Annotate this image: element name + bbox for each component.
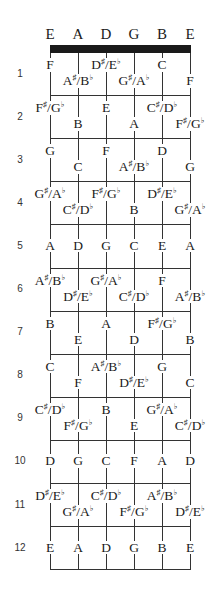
note-label: A♯/B♭ [174,290,206,304]
note-label: F [157,274,167,288]
note-label: G♯/A♭ [89,274,122,288]
note-label: C♯/D♭ [34,403,66,417]
fret-number: 6 [14,284,26,294]
note-label: G [184,160,196,174]
fret-line [50,138,191,139]
note-label: B [100,403,111,417]
note-label: C♯/D♭ [146,101,178,115]
fret-number: 12 [14,543,26,553]
note-label: C♯/D♭ [118,290,150,304]
open-string-label: G [129,27,140,42]
note-label: D [44,454,56,468]
note-label: A♯/B♭ [118,160,150,174]
note-label: B [156,541,167,555]
note-label: E [101,101,111,115]
note-label: D♯/E♭ [90,58,122,72]
note-label: F [101,144,111,158]
fret-line [50,181,191,182]
note-label: G [44,144,56,158]
note-label: D [100,541,112,555]
note-label: D♯/E♭ [174,505,206,519]
note-label: D♯/E♭ [118,376,150,390]
note-label: F♯/G♭ [119,505,150,519]
fretboard-diagram: EADGBE1FA♯/B♭D♯/E♭G♯/A♭CF2F♯/G♭BEAC♯/D♭F… [0,0,218,590]
note-label: D♯/E♭ [62,290,94,304]
fret-line [50,95,191,96]
note-label: A [100,317,112,331]
open-string-label: B [157,27,167,42]
note-label: A [184,239,196,253]
note-label: G [128,541,140,555]
fret-number: 2 [14,112,26,122]
fret-number: 10 [14,456,26,466]
note-label: B [44,317,55,331]
fret-line [50,440,191,441]
note-label: B [184,333,195,347]
note-label: E [157,239,167,253]
open-string-label: E [185,27,194,42]
fret-line [50,354,191,355]
fret-line [50,311,191,312]
fret-line [50,526,191,527]
note-label: F♯/G♭ [175,117,206,131]
note-label: A♯/B♭ [90,360,122,374]
note-label: B [128,203,139,217]
fret-number: 11 [14,500,26,510]
note-label: G [156,360,168,374]
note-label: D♯/E♭ [146,187,178,201]
note-label: G [72,454,84,468]
note-label: F [185,74,195,88]
fret-number: 7 [14,327,26,337]
note-label: C [100,454,111,468]
note-label: E [129,419,139,433]
fret-line [50,569,191,570]
note-label: C♯/D♭ [62,203,94,217]
note-label: A♯/B♭ [62,74,94,88]
note-label: C♯/D♭ [90,489,122,503]
note-label: G♯/A♭ [33,187,66,201]
note-label: C [72,160,83,174]
note-label: E [185,541,195,555]
note-label: G♯/A♭ [117,74,150,88]
note-label: D [184,454,196,468]
fret-number: 1 [14,69,26,79]
note-label: F [129,454,139,468]
nut [50,45,191,53]
note-label: C♯/D♭ [174,419,206,433]
open-string-label: D [101,27,112,42]
note-label: F♯/G♭ [35,101,66,115]
open-string-label: A [73,27,84,42]
note-label: C [184,376,195,390]
note-label: C [156,58,167,72]
note-label: G♯/A♭ [61,505,94,519]
note-label: F♯/G♭ [63,419,94,433]
note-label: D [156,144,168,158]
note-label: G♯/A♭ [173,203,206,217]
fret-number: 5 [14,241,26,251]
note-label: F [73,376,83,390]
note-label: G♯/A♭ [145,403,178,417]
fret-line [50,224,191,225]
fret-number: 3 [14,155,26,165]
note-label: C [44,360,55,374]
note-label: A [128,117,140,131]
fret-number: 9 [14,413,26,423]
note-label: F♯/G♭ [147,317,178,331]
note-label: D [72,239,84,253]
open-string-label: E [45,27,54,42]
note-label: A [156,454,168,468]
note-label: D [128,333,140,347]
note-label: G [100,239,112,253]
fret-line [50,397,191,398]
fret-line [50,483,191,484]
fret-number: 4 [14,198,26,208]
note-label: A [44,239,56,253]
note-label: F♯/G♭ [91,187,122,201]
fret-line [50,268,191,269]
note-label: D♯/E♭ [34,489,66,503]
note-label: C [128,239,139,253]
note-label: B [72,117,83,131]
note-label: E [45,541,55,555]
fret-number: 8 [14,370,26,380]
note-label: F [45,58,55,72]
